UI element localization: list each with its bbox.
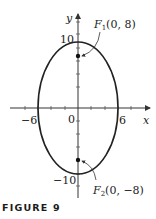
- focus-label-f1: F1(0, 8): [93, 18, 136, 32]
- focus-point-f1: [76, 54, 80, 58]
- tick-label-neg6: −6: [21, 114, 37, 127]
- tick-label-neg10: −10: [53, 174, 76, 187]
- x-axis-label: x: [143, 114, 150, 127]
- f2-leader-arrow: [82, 161, 96, 180]
- f1-leader-arrow: [82, 32, 100, 56]
- focus-label-f2: F2(0, −8): [92, 184, 144, 198]
- tick-label-6: 6: [119, 114, 126, 127]
- y-axis-label: y: [65, 12, 73, 25]
- figure-caption: FIGURE 9: [2, 202, 61, 213]
- tick-label-origin: 0: [68, 113, 75, 126]
- tick-label-10: 10: [60, 33, 74, 46]
- focus-point-f2: [76, 158, 80, 162]
- ellipse-figure: y x 10 −10 −6 6 0 F1(0, 8) F2(0, −8): [0, 0, 156, 219]
